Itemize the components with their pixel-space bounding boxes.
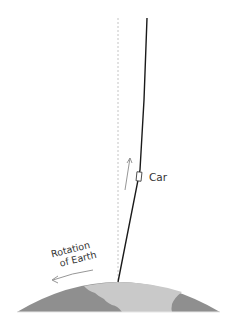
upward-motion-arrow-icon bbox=[125, 158, 132, 190]
car-label: Car bbox=[149, 171, 168, 183]
car-marker bbox=[136, 172, 142, 181]
rotation-label-group: Rotation of Earth bbox=[50, 238, 98, 270]
car-trajectory-line bbox=[118, 18, 147, 282]
diagram-canvas: Car Rotation of Earth bbox=[0, 0, 234, 328]
earth-rotation-diagram: Car Rotation of Earth bbox=[0, 0, 234, 328]
rotation-direction-arrow-icon bbox=[52, 270, 93, 283]
